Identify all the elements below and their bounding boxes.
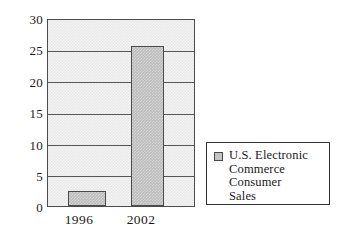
legend-color-swatch-icon <box>214 152 223 161</box>
chart-legend: U.S. Electronic Commerce Consumer Sales <box>206 142 330 205</box>
y-tick-label-10: 10 <box>3 139 43 152</box>
y-axis: 30 25 20 15 10 5 0 <box>0 0 43 243</box>
y-tick-label-20: 20 <box>3 76 43 89</box>
y-tick-label-0: 0 <box>3 201 43 214</box>
gridline-20 <box>48 82 194 83</box>
y-tick-label-15: 15 <box>3 107 43 120</box>
bar-1996[interactable] <box>68 191 106 206</box>
x-tick-label-1996: 1996 <box>48 212 110 227</box>
y-tick-label-25: 25 <box>3 44 43 57</box>
gridline-5 <box>48 176 194 177</box>
gridline-10 <box>48 145 194 146</box>
x-tick-label-2002: 2002 <box>110 212 172 227</box>
legend-series-label: U.S. Electronic Commerce Consumer Sales <box>229 149 308 203</box>
gridline-25 <box>48 51 194 52</box>
bar-2002-texture <box>132 47 163 205</box>
y-tick-label-30: 30 <box>3 13 43 26</box>
y-tick-label-5: 5 <box>3 170 43 183</box>
gridline-15 <box>48 114 194 115</box>
bar-chart-figure: 30 25 20 15 10 5 0 1996 2002 U.S. Electr… <box>0 0 348 243</box>
bar-2002[interactable] <box>131 46 164 206</box>
bar-1996-texture <box>69 192 105 205</box>
plot-area <box>47 19 195 207</box>
